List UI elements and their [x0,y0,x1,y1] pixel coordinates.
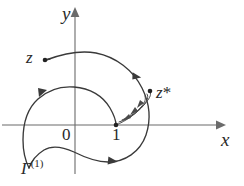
contour-name-label: Γ(1) [21,158,44,177]
gamma-superscript: (1) [31,157,44,169]
arrowhead-icon-outer-bottom [108,157,119,166]
x-axis-label: x [221,130,229,149]
dot-icon-z [43,58,48,63]
outer-contour-upper [29,52,149,168]
origin-label: 0 [62,126,71,143]
contour-arrowheads-group [38,71,144,165]
dot-icon-z-star [148,89,153,94]
point-label-z-star: z* [156,84,171,101]
marker-dots-group [43,58,153,128]
contour-path-group [23,52,151,168]
z-star-asterisk: * [163,83,172,102]
point-label-z: z [26,49,33,66]
unit-label: 1 [112,126,121,143]
y-axis-label: y [62,4,70,23]
arrow-up-icon [71,7,80,17]
spiral-strand-middle [119,94,148,122]
figure-root: y x z z* 0 1 Γ(1) [0,0,244,186]
z-star-base: z [156,83,163,102]
arrowhead-icon-outer-right [132,71,142,79]
axes-group [2,7,226,174]
gamma-glyph: Γ [21,159,31,178]
